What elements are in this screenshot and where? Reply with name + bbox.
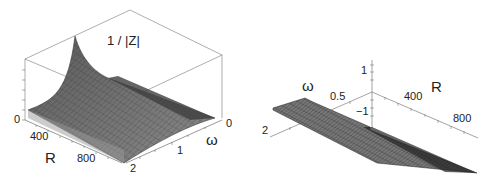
left-surface-plot: 1 / |Z| 0 400 800 R 0 1 2 ω [0, 0, 245, 181]
left-plot-canvas [0, 0, 245, 181]
r-tick-800: 800 [77, 152, 95, 164]
omega-tick-0: 0 [226, 117, 232, 129]
r-tick-800: 800 [453, 112, 471, 124]
right-plot-canvas [245, 0, 487, 181]
surface [273, 98, 477, 173]
omega-axis-label: ω [302, 77, 314, 94]
right-surface-plot: 1 −1 ω 0.5 2 R 400 800 [245, 0, 487, 181]
r-tick-400: 400 [30, 130, 48, 142]
omega-tick-0-5: 0.5 [330, 90, 345, 102]
z-tick-0: 0 [14, 113, 20, 125]
r-tick-400: 400 [404, 90, 422, 102]
surface [28, 36, 215, 163]
z-tick-1: 1 [361, 64, 367, 76]
r-axis-label: R [45, 149, 56, 166]
omega-tick-2: 2 [262, 124, 268, 136]
plot-title: 1 / |Z| [107, 33, 140, 48]
omega-tick-2: 2 [130, 162, 136, 174]
z-tick-neg1: −1 [356, 105, 369, 117]
r-axis-label: R [431, 78, 442, 95]
omega-axis-label: ω [206, 131, 218, 148]
omega-tick-1: 1 [177, 144, 183, 156]
